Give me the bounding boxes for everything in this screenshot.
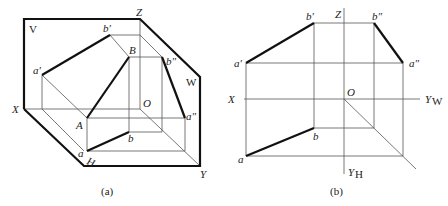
axis-yw-label: Y W [425,93,443,107]
axis-x-label: X [11,103,20,115]
axis-x-label-b: X [227,93,236,105]
line-b-dprime-a-dprime-b [374,23,403,63]
axis-yh-label: Y H [348,166,363,180]
plane-v-label: V [29,23,37,35]
point-b-dprime-label: b″ [166,55,177,67]
point-b-label-b: b [313,130,319,142]
line-a-b-b [246,128,314,156]
projection-diagram: V W H Z X Y O b′ a′ B b″ A a b a″ (a) [0,0,448,206]
point-b-prime-label: b′ [103,22,112,34]
figure-a-caption: (a) [101,185,114,198]
line-a-prime-b-prime-b [246,23,314,63]
axis-z-label-b: Z [335,8,342,20]
point-a-prime-label: a′ [33,64,42,76]
origin-o-label: O [143,97,151,109]
point-A-label: A [75,119,83,131]
line-a-prime-b-prime [42,35,110,75]
point-a-label-b: a [238,153,244,165]
figure-a-construction-lines [24,19,200,166]
point-b-label: b [128,132,134,144]
point-a-dprime-label: a″ [186,110,197,122]
point-a-dprime-label-b: a″ [409,57,420,69]
point-b-dprime-label-b: b″ [372,10,383,22]
point-B-label: B [129,44,136,56]
figure-b-construction-lines [244,8,420,174]
svg-text:W: W [432,95,443,107]
axis-y-label: Y [200,168,208,180]
plane-h-label: H [85,155,98,169]
origin-o-label-b: O [347,86,355,98]
point-a-prime-label-b: a′ [234,57,243,69]
point-a-label: a [78,147,84,159]
point-b-prime-label-b: b′ [306,10,315,22]
figure-b-orthographic-view: Z X O Y W Y H b′ a′ b″ a″ b a (b) [227,8,443,198]
line-a-b [87,132,129,151]
axis-z-label: Z [136,6,143,18]
svg-text:H: H [355,168,363,180]
figure-a-isometric-view: V W H Z X Y O b′ a′ B b″ A a b a″ (a) [11,6,208,198]
figure-b-caption: (b) [330,185,343,198]
figure-a-frame [24,19,200,166]
plane-w-label: W [186,76,197,88]
